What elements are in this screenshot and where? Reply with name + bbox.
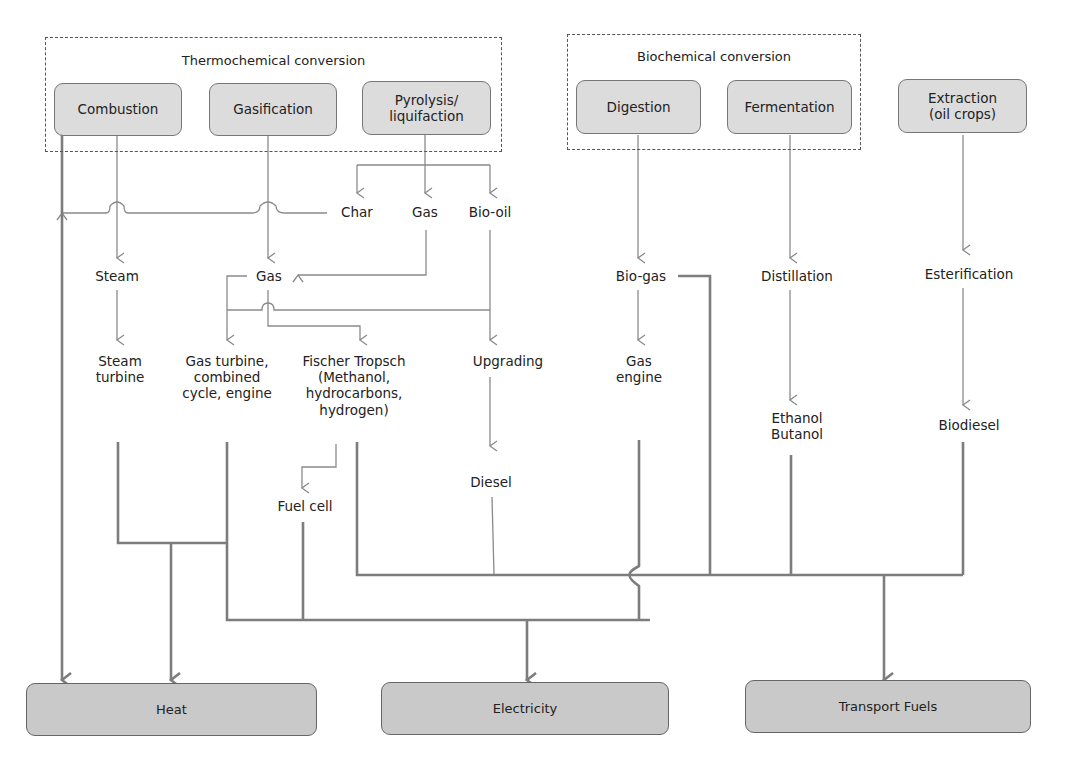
upgrading-label: Upgrading <box>473 353 543 369</box>
electricity-output-box: Electricity <box>381 682 669 735</box>
char-label: Char <box>341 204 373 220</box>
biochemical-title: Biochemical conversion <box>567 49 861 64</box>
gas-engine-label: Gas engine <box>616 353 662 385</box>
digestion-box: Digestion <box>576 80 701 134</box>
biodiesel-label: Biodiesel <box>939 417 1000 433</box>
gasification-box: Gasification <box>209 83 337 136</box>
bio-oil-label: Bio-oil <box>469 204 511 220</box>
esterification-label: Esterification <box>925 266 1014 282</box>
fermentation-box: Fermentation <box>727 80 852 134</box>
fischer-tropsch-label: Fischer Tropsch (Methanol, hydrocarbons,… <box>302 353 405 418</box>
extraction-box: Extraction (oil crops) <box>898 79 1027 133</box>
bio-gas-label: Bio-gas <box>616 268 666 284</box>
diesel-label: Diesel <box>470 474 512 490</box>
distillation-label: Distillation <box>761 268 833 284</box>
steam-turbine-label: Steam turbine <box>96 353 145 385</box>
gas-label: Gas <box>256 268 282 284</box>
fuel-cell-label: Fuel cell <box>277 498 332 514</box>
gas-turbine-label: Gas turbine, combined cycle, engine <box>182 353 272 402</box>
bioenergy-conversion-diagram: Thermochemical conversion Biochemical co… <box>0 0 1086 761</box>
transport-fuels-output-box: Transport Fuels <box>745 680 1031 733</box>
steam-label: Steam <box>95 268 139 284</box>
heat-output-box: Heat <box>26 683 317 736</box>
pyrolysis-gas-label: Gas <box>412 204 438 220</box>
combustion-box: Combustion <box>54 83 182 136</box>
ethanol-butanol-label: Ethanol Butanol <box>771 410 823 442</box>
thermochemical-title: Thermochemical conversion <box>45 53 502 68</box>
pyrolysis-box: Pyrolysis/ liquifaction <box>362 81 491 135</box>
